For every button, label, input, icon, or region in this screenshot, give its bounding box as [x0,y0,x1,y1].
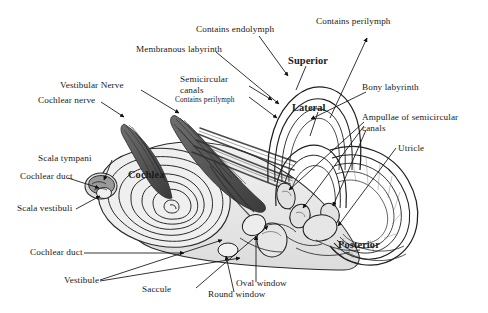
label-round-window: Round window [208,289,266,300]
label-vestibule: Vestibule [64,275,99,286]
label-contains-perilymph-top: Contains perilymph [316,16,391,27]
label-semicircular-contains-perilymph: Contains perilymph [175,96,235,104]
label-scala-tympani: Scala tympani [38,153,92,164]
label-contains-endolymph: Contains endolymph [196,24,274,35]
label-cochlea: Cochlea [128,170,164,181]
label-cochlear-nerve: Cochlear nerve [38,95,95,106]
label-cochlear-duct-upper: Cochlear duct [20,171,73,182]
label-posterior: Posterior [338,240,380,251]
label-ampullae-line2: canals [362,123,386,134]
label-semicircular-canals-line1: Semicircular [180,74,228,85]
label-semicircular-canals-line2: canals [180,85,204,96]
label-vestibular-nerve: Vestibular Nerve [60,80,124,91]
label-lateral: Lateral [292,103,326,114]
label-membranous-labyrinth: Membranous labyrinth [136,44,222,55]
label-cochlear-duct-lower: Cochlear duct [30,247,83,258]
inner-ear-diagram: Contains endolymph Contains perilymph Me… [0,0,488,313]
label-saccule: Saccule [142,284,171,295]
label-bony-labyrinth: Bony labyrinth [362,82,419,93]
cochlear-base [85,173,117,199]
label-ampullae-line1: Ampullae of semicircular [362,112,458,123]
label-utricle: Utricle [398,143,424,154]
label-oval-window: Oval window [236,278,287,289]
label-scala-vestibuli: Scala vestibuli [17,203,72,214]
label-superior: Superior [288,56,328,67]
